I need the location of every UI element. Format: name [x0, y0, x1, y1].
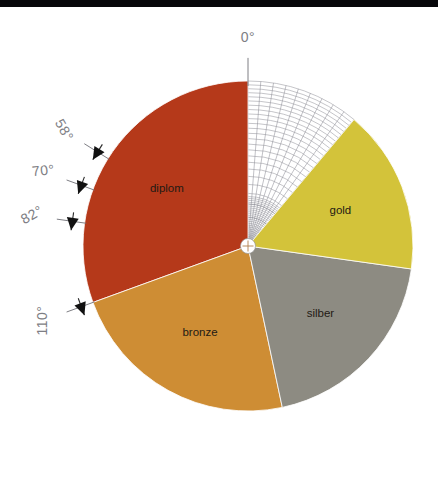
angle-label-70: 70°	[31, 161, 55, 179]
angle-label-110: 110°	[34, 306, 50, 336]
grid-ring	[248, 128, 324, 156]
grid-ring	[248, 85, 352, 123]
grid-ring	[248, 139, 317, 164]
grid-ring	[248, 162, 302, 182]
grid-ring	[248, 97, 344, 132]
grid-ring	[248, 133, 320, 159]
pie-chart-figure: 0°110°82°70°58° diplombronzesilbergold	[0, 0, 438, 477]
angle-label-82: 82°	[18, 202, 46, 227]
grid-ring	[248, 114, 333, 145]
slice-label-silber: silber	[307, 307, 335, 319]
pie-chart-svg: 0°110°82°70°58° diplombronzesilbergold	[0, 0, 438, 477]
grid-ring	[248, 169, 297, 187]
grid-radial	[248, 82, 261, 247]
slice-label-gold: gold	[330, 204, 352, 216]
angle-label-0: 0°	[241, 29, 255, 45]
angle-marker-58	[93, 146, 105, 160]
grid-ring	[248, 89, 349, 126]
center-hub	[241, 239, 256, 254]
angle-label-58: 58°	[52, 116, 77, 144]
slice-label-diplom: diplom	[150, 182, 184, 194]
grid-ring	[248, 156, 306, 177]
slice-label-bronze: bronze	[182, 326, 217, 338]
angle-marker-82	[67, 217, 79, 230]
grid-ring	[248, 81, 354, 120]
grid-ring	[248, 119, 330, 149]
grid-ring	[248, 93, 347, 129]
